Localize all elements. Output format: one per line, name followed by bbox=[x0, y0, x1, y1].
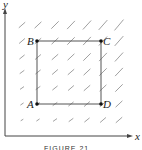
slope-segment bbox=[115, 68, 123, 76]
slope-segment bbox=[36, 86, 41, 89]
slope-segment bbox=[68, 69, 74, 75]
slope-segment bbox=[52, 86, 57, 90]
slope-segment bbox=[52, 70, 58, 75]
slope-segment bbox=[20, 70, 25, 73]
slope-segment bbox=[100, 118, 106, 123]
slope-segment bbox=[116, 101, 123, 107]
slope-segment bbox=[68, 86, 74, 91]
slope-segment bbox=[19, 22, 25, 28]
point-label-b: B bbox=[27, 35, 34, 47]
slope-segment bbox=[69, 118, 74, 121]
slope-segment bbox=[53, 119, 57, 122]
point-label-c: C bbox=[103, 35, 111, 47]
slope-segment bbox=[84, 118, 89, 122]
slope-segment bbox=[35, 70, 40, 74]
figure-caption: FIGURE 21 bbox=[44, 145, 89, 150]
slope-segment bbox=[20, 103, 23, 105]
point-b bbox=[35, 39, 39, 43]
slope-segment bbox=[19, 39, 25, 44]
slope-segment bbox=[84, 85, 90, 91]
slope-segment bbox=[19, 55, 24, 59]
point-label-d: D bbox=[102, 98, 111, 110]
slope-segment bbox=[51, 21, 58, 28]
slope-segment bbox=[20, 87, 24, 90]
slope-segment bbox=[115, 84, 122, 91]
slope-segment bbox=[68, 54, 75, 60]
y-axis-label: y bbox=[2, 0, 8, 10]
rectangle-abcd bbox=[37, 41, 101, 104]
slope-segment bbox=[52, 54, 58, 60]
slope-segment bbox=[115, 36, 124, 46]
slope-segment bbox=[99, 53, 107, 61]
slope-segment bbox=[115, 20, 124, 31]
slope-segment bbox=[35, 55, 41, 60]
slope-field-figure: y x B C A D FIGURE 21 bbox=[0, 0, 142, 150]
slope-segment bbox=[99, 20, 108, 30]
slope-segment bbox=[36, 119, 39, 121]
vertex-points bbox=[35, 39, 103, 106]
slope-segment bbox=[115, 53, 123, 62]
x-axis-label: x bbox=[134, 130, 140, 142]
slope-segment bbox=[83, 53, 90, 60]
slope-segment bbox=[84, 69, 91, 75]
point-label-a: A bbox=[26, 98, 34, 110]
slope-segment bbox=[116, 117, 122, 123]
slope-segment bbox=[67, 21, 75, 29]
slope-segment bbox=[21, 119, 24, 121]
slope-segment bbox=[35, 22, 42, 28]
slope-segment bbox=[99, 68, 106, 75]
x-axis-arrow-icon bbox=[127, 134, 133, 138]
point-a bbox=[35, 102, 39, 106]
slope-segment bbox=[83, 21, 91, 30]
